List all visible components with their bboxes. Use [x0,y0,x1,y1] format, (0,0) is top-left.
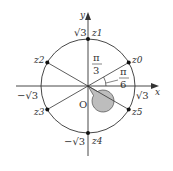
angle-arc-pi6 [104,77,106,86]
label-z2: z2 [33,55,45,65]
point-z0 [127,61,131,65]
angle-pi3-denominator: 3 [93,65,99,76]
x-pos-radius-label: √3 [136,90,149,101]
point-z3 [45,108,49,112]
label-z4: z4 [91,136,103,146]
complex-plane-diagram: y x O √3 −√3 √3 −√3 z0 z1 z2 z3 z4 z5 π … [0,0,173,171]
label-z5: z5 [131,107,143,117]
angle-pi3-numerator: π [93,52,100,63]
origin-label: O [79,99,87,110]
label-z3: z3 [33,107,45,117]
angle-pi6-denominator: 6 [120,79,126,90]
point-z5 [127,108,131,112]
y-pos-radius-label: √3 [74,27,87,38]
angle-pi6-numerator: π [120,66,127,77]
y-axis-label: y [79,10,86,20]
point-z2 [45,61,49,65]
pi6-pointer [106,80,118,83]
y-axis-arrow-icon [85,12,91,20]
y-neg-radius-label: −√3 [64,136,85,147]
point-z4 [86,131,90,135]
x-neg-radius-label: −√3 [17,90,38,101]
label-z1: z1 [91,28,102,38]
x-axis-label: x [155,87,160,97]
label-z0: z0 [131,55,143,65]
